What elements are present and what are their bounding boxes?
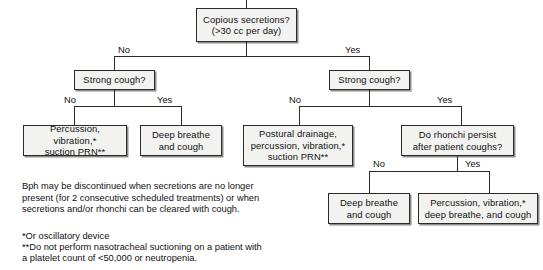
left-decision-label: Strong cough? — [83, 74, 145, 85]
right-decision-box: Strong cough? — [329, 70, 410, 90]
root-decision-box: Copious secretions? (>30 cc per day) — [196, 8, 297, 42]
right-no-label: No — [289, 95, 301, 105]
right-no-outcome-line3: suction PRN** — [268, 151, 329, 162]
rhonchi-yes-outcome-box: Percussion, vibration,* deep breathe, an… — [418, 193, 538, 224]
right-no-drop — [299, 106, 300, 125]
left-split-line — [74, 106, 181, 107]
rhonchi-decision-box: Do rhonchi persist after patient coughs? — [401, 125, 514, 156]
left-yes-outcome-line2: and cough — [159, 141, 204, 152]
right-split-line — [299, 106, 461, 107]
left-yes-outcome-box: Deep breathe and cough — [140, 125, 222, 156]
left-no-outcome-box: Percussion, vibration,* suction PRN** — [23, 125, 127, 156]
rhonchi-no-label: No — [373, 159, 385, 169]
rhonchi-no-outcome-box: Deep breathe and cough — [328, 193, 410, 224]
footnote-one: *Or oscillatory device — [22, 231, 312, 242]
left-yes-drop — [181, 106, 182, 125]
right-no-outcome-box: Postural drainage, percussion, vibration… — [243, 125, 353, 166]
right-decision-stem — [369, 90, 370, 106]
left-yes-outcome-line1: Deep breathe — [152, 129, 210, 140]
discontinuation-note: Bph may be discontinued when secretions … — [22, 181, 312, 216]
left-decision-stem — [114, 90, 115, 106]
rhonchi-yes-outcome-line2: deep breathe, and cough — [425, 209, 532, 220]
right-yes-label: Yes — [437, 95, 452, 105]
left-no-label: No — [64, 95, 76, 105]
rhonchi-yes-label: Yes — [465, 159, 480, 169]
rhonchi-split-line — [369, 171, 489, 172]
root-yes-drop — [369, 56, 370, 70]
right-no-outcome-line1: Postural drainage, — [259, 128, 337, 139]
root-split-line — [114, 56, 369, 57]
root-no-drop — [114, 56, 115, 70]
root-stem — [246, 42, 247, 56]
rhonchi-stem — [457, 156, 458, 171]
left-decision-box: Strong cough? — [74, 70, 155, 90]
rhonchi-yes-drop — [489, 171, 490, 193]
flowchart-canvas: Copious secretions? (>30 cc per day) No … — [0, 0, 543, 270]
right-decision-label: Strong cough? — [338, 74, 400, 85]
incoming-connector — [246, 0, 247, 8]
root-yes-label: Yes — [345, 45, 360, 55]
root-decision-line2: (>30 cc per day) — [212, 25, 282, 36]
rhonchi-decision-line1: Do rhonchi persist — [419, 129, 496, 140]
root-decision-line1: Copious secretions? — [203, 14, 290, 25]
rhonchi-no-outcome-line1: Deep breathe — [340, 197, 398, 208]
right-yes-drop — [461, 106, 462, 125]
left-yes-label: Yes — [157, 95, 172, 105]
rhonchi-decision-line2: after patient coughs? — [413, 141, 503, 152]
footnote-two: **Do not perform nasotracheal suctioning… — [22, 242, 312, 265]
left-no-outcome-line2: suction PRN** — [45, 146, 106, 157]
rhonchi-no-outcome-line2: and cough — [347, 209, 392, 220]
rhonchi-no-drop — [369, 171, 370, 193]
rhonchi-yes-outcome-line1: Percussion, vibration,* — [430, 197, 526, 208]
left-no-outcome-line1: Percussion, vibration,* — [28, 123, 122, 146]
root-no-label: No — [118, 45, 130, 55]
left-no-drop — [74, 106, 75, 125]
right-no-outcome-line2: percussion, vibration,* — [251, 140, 346, 151]
